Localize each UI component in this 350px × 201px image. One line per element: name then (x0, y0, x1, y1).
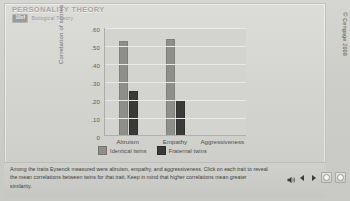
previous-icon (300, 175, 304, 181)
gridline (105, 100, 246, 101)
x-axis-label[interactable]: Altruism (116, 138, 138, 145)
y-axis-tick: .30 (91, 81, 100, 87)
y-axis-tick: .50 (91, 45, 100, 51)
bar-identical[interactable] (119, 41, 128, 136)
legend-swatch-fraternal (157, 146, 166, 155)
legend-item-identical: Identical twins (98, 146, 147, 155)
x-axis-label[interactable]: Aggressiveness (200, 138, 244, 145)
play-button[interactable] (309, 172, 318, 183)
copyright-notice: © Cengage 2008 (342, 12, 348, 56)
stop-icon (323, 174, 330, 181)
legend-label-fraternal: Fraternal twins (169, 148, 207, 154)
y-axis-tick: 0 (97, 135, 100, 141)
next-icon (337, 174, 344, 181)
stop-button[interactable] (321, 172, 332, 183)
legend-item-fraternal: Fraternal twins (157, 146, 207, 155)
y-axis-label: Correlation of scores (58, 4, 64, 64)
play-icon (312, 175, 316, 181)
next-button[interactable] (335, 172, 346, 183)
y-axis-tick: .20 (91, 99, 100, 105)
y-axis-tick: .10 (91, 117, 100, 123)
subtitle-label: Biological Theory (31, 15, 73, 21)
axis-baseline (105, 135, 246, 136)
x-axis-label[interactable]: Empathy (163, 138, 187, 145)
gridline (105, 28, 246, 29)
chapter-badge: 10of (12, 14, 28, 23)
bar-chart: Correlation of scores 0.10.20.30.40.50.6… (6, 26, 324, 158)
bar-identical[interactable] (166, 39, 175, 136)
legend-label-identical: Identical twins (110, 148, 147, 154)
gridline (105, 82, 246, 83)
gridline (105, 46, 246, 47)
caption-text: Among the traits Eysenck measured were a… (10, 165, 268, 190)
previous-button[interactable] (297, 172, 306, 183)
y-axis-ticks: 0.10.20.30.40.50.60 (72, 28, 100, 136)
gridline (105, 118, 246, 119)
player-controls (297, 172, 346, 183)
legend-swatch-identical (98, 146, 107, 155)
caption-bar: Among the traits Eysenck measured were a… (4, 162, 326, 197)
chart-legend: Identical twins Fraternal twins (98, 146, 207, 155)
y-axis-tick: .60 (91, 27, 100, 33)
speaker-icon[interactable] (287, 176, 296, 184)
slide-screen: PERSONALITY THEORY 10of Biological Theor… (0, 0, 350, 201)
plot-area (104, 28, 246, 136)
bar-fraternal[interactable] (129, 91, 138, 136)
gridline (105, 64, 246, 65)
y-axis-tick: .40 (91, 63, 100, 69)
slide-header: PERSONALITY THEORY 10of Biological Theor… (6, 4, 324, 26)
